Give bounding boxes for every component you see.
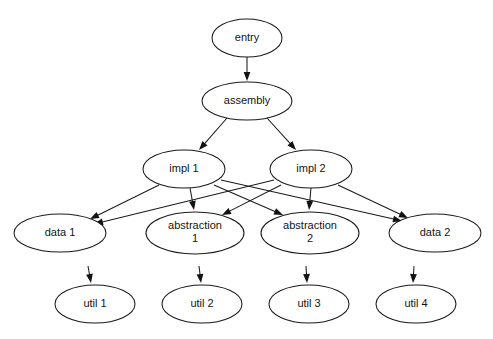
edge-line [267, 118, 291, 144]
edge-abstraction1-to-util2 [197, 266, 204, 283]
edge-impl1-to-data1 [90, 185, 159, 219]
node-util1[interactable]: util 1 [55, 285, 135, 323]
node-shape[interactable] [143, 150, 225, 188]
node-shape[interactable] [162, 285, 242, 323]
edge-assembly-to-impl1 [199, 118, 227, 150]
arrowhead-icon [90, 212, 100, 219]
node-util2[interactable]: util 2 [162, 285, 242, 323]
arrowhead-icon [222, 208, 232, 215]
edge-impl2-to-data2 [338, 185, 408, 218]
arrowhead-icon [273, 208, 283, 215]
node-data1[interactable]: data 1 [14, 214, 106, 252]
node-util4[interactable]: util 4 [376, 285, 456, 323]
node-shape[interactable] [376, 285, 456, 323]
arrowhead-icon [410, 274, 417, 283]
arrowhead-icon [86, 274, 93, 283]
arrowhead-icon [303, 274, 310, 283]
edge-impl2-to-abstraction2 [306, 188, 313, 210]
arrowhead-icon [244, 72, 251, 81]
node-abstraction1[interactable]: abstraction1 [146, 212, 244, 254]
node-shape[interactable] [261, 212, 359, 254]
edge-line [338, 185, 401, 215]
node-shape[interactable] [212, 19, 282, 57]
edge-data2-to-util4 [410, 266, 417, 283]
node-impl2[interactable]: impl 2 [270, 150, 352, 188]
node-abstraction2[interactable]: abstraction2 [261, 212, 359, 254]
diagram-canvas: entryassemblyimpl 1impl 2data 1abstracti… [0, 0, 493, 339]
node-shape[interactable] [270, 150, 352, 188]
arrowhead-icon [306, 201, 313, 210]
edge-data1-to-util1 [86, 266, 93, 283]
node-util3[interactable]: util 3 [269, 285, 349, 323]
edge-line [97, 185, 159, 216]
node-assembly[interactable]: assembly [202, 82, 292, 120]
arrowhead-icon [197, 274, 204, 283]
node-shape[interactable] [146, 212, 244, 254]
node-shape[interactable] [269, 285, 349, 323]
node-shape[interactable] [14, 214, 106, 252]
edge-line [204, 118, 227, 144]
dependency-graph: entryassemblyimpl 1impl 2data 1abstracti… [0, 0, 493, 339]
edge-entry-to-assembly [244, 57, 251, 81]
node-impl1[interactable]: impl 1 [143, 150, 225, 188]
arrowhead-icon [398, 211, 408, 218]
edge-abstraction2-to-util3 [303, 266, 310, 283]
edge-line [214, 185, 276, 212]
node-shape[interactable] [389, 214, 481, 252]
node-entry[interactable]: entry [212, 19, 282, 57]
node-shape[interactable] [55, 285, 135, 323]
edge-assembly-to-impl2 [267, 118, 296, 150]
node-shape[interactable] [202, 82, 292, 120]
node-data2[interactable]: data 2 [389, 214, 481, 252]
arrowhead-icon [189, 201, 196, 210]
